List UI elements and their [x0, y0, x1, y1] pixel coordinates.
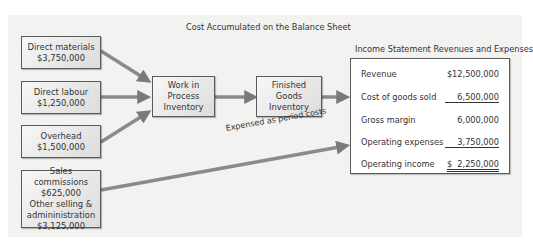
wip-line1: Work in — [168, 80, 200, 91]
fg-line2: Goods — [276, 91, 302, 102]
administration-label: admininistration — [27, 210, 95, 221]
other-selling-amount: $3,125,000 — [37, 221, 85, 232]
sales-commissions-amount: $625,000 — [41, 188, 81, 199]
arrow-period-costs — [101, 146, 345, 190]
other-selling-label: Other selling & — [30, 199, 93, 210]
cogs-value: 6,500,000 — [445, 92, 499, 103]
gross-margin-value: 6,000,000 — [457, 115, 499, 125]
is-row-operating-income: Operating income $ 2,250,000 — [361, 159, 499, 173]
direct-labour-label: Direct labour — [34, 87, 88, 98]
overhead-box: Overhead $1,500,000 — [21, 125, 101, 158]
revenue-value: $12,500,000 — [447, 69, 499, 79]
overhead-label: Overhead — [41, 131, 82, 142]
direct-labour-box: Direct labour $1,250,000 — [21, 81, 101, 114]
cogs-label: Cost of goods sold — [361, 92, 436, 102]
overhead-amount: $1,500,000 — [37, 142, 85, 153]
wip-line3: Inventory — [163, 102, 203, 113]
fg-line1: Finished — [272, 80, 306, 91]
operating-expenses-value: 3,750,000 — [445, 137, 499, 148]
sales-commissions-label: Sales commissions — [22, 166, 100, 188]
operating-income-label: Operating income — [361, 159, 435, 169]
is-row-cogs: Cost of goods sold 6,500,000 — [361, 92, 499, 106]
operating-income-value: $ 2,250,000 — [447, 159, 499, 172]
wip-inventory-box: Work in Process Inventory — [152, 76, 215, 117]
wip-line2: Process — [168, 91, 200, 102]
arrow-dm-to-wip — [101, 51, 147, 80]
direct-materials-label: Direct materials — [27, 42, 94, 53]
is-row-revenue: Revenue $12,500,000 — [361, 69, 499, 83]
operating-expenses-label: Operating expenses — [361, 137, 443, 147]
period-costs-box: Sales commissions $625,000 Other selling… — [21, 170, 101, 228]
direct-materials-amount: $3,750,000 — [37, 53, 85, 64]
is-row-gross-margin: Gross margin 6,000,000 — [361, 115, 499, 129]
arrow-oh-to-wip — [101, 113, 147, 142]
is-row-operating-expenses: Operating expenses 3,750,000 — [361, 137, 499, 151]
direct-labour-amount: $1,250,000 — [37, 98, 85, 109]
direct-materials-box: Direct materials $3,750,000 — [21, 36, 101, 69]
revenue-label: Revenue — [361, 69, 397, 79]
gross-margin-label: Gross margin — [361, 115, 416, 125]
income-statement-box: Revenue $12,500,000 Cost of goods sold 6… — [350, 58, 510, 174]
